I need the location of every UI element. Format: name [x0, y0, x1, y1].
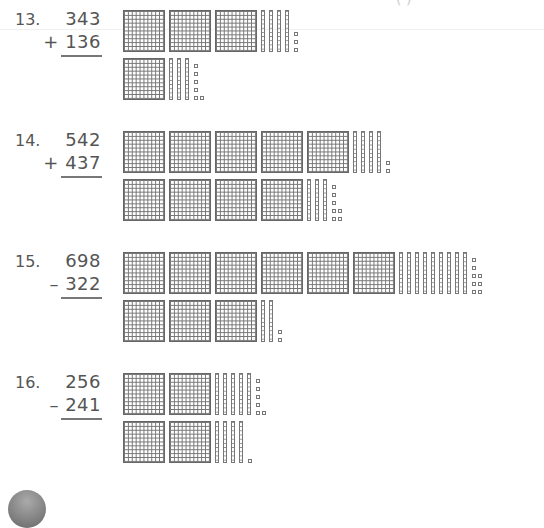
ones-column	[256, 373, 260, 415]
problem-16: 16. 256 – 241	[0, 373, 544, 488]
hundreds-block	[169, 373, 211, 415]
hundreds-block	[123, 179, 165, 221]
tens-rod	[439, 252, 443, 294]
top-addend: 343	[31, 8, 101, 29]
tens-rod	[285, 10, 289, 52]
hundreds-block	[169, 179, 211, 221]
tens-rod	[447, 252, 451, 294]
hundreds-block	[261, 131, 303, 173]
ones-cube	[194, 96, 198, 100]
tens-rod	[415, 252, 419, 294]
hundreds-block	[123, 252, 165, 294]
tens-rod	[177, 58, 181, 100]
tens-rod	[247, 373, 251, 415]
ones-cube	[332, 217, 336, 221]
answer-line	[61, 297, 102, 299]
ones-group	[194, 58, 206, 100]
ones-cube	[194, 88, 198, 92]
hundreds-block	[123, 373, 165, 415]
hundreds-block	[353, 252, 395, 294]
ones-cube	[472, 258, 476, 262]
hundreds-block	[123, 131, 165, 173]
ones-column	[278, 300, 282, 342]
hundreds-block	[169, 421, 211, 463]
header-fragment: ( )	[396, 0, 411, 7]
ones-cube	[472, 274, 476, 278]
base-ten-model-bottom	[123, 179, 344, 221]
ones-cube	[294, 32, 298, 36]
ones-cube	[248, 459, 252, 463]
ones-group	[386, 131, 392, 173]
tens-rod	[223, 421, 227, 463]
ones-cube	[194, 80, 198, 84]
tens-rod	[215, 421, 219, 463]
ones-column	[478, 252, 482, 294]
ones-cube	[332, 185, 336, 189]
tens-rod	[261, 10, 265, 52]
ones-cube	[472, 290, 476, 294]
ones-cube	[256, 379, 260, 383]
problem-13: 13. 343 + 136	[0, 10, 544, 125]
top-addend: 542	[31, 129, 101, 150]
ones-cube	[478, 290, 482, 294]
minuend: 698	[31, 250, 101, 271]
hundreds-block	[169, 300, 211, 342]
tens-rod	[269, 300, 273, 342]
tens-rod	[239, 421, 243, 463]
hundreds-block	[123, 300, 165, 342]
tens-rod	[399, 252, 403, 294]
ones-column	[332, 179, 336, 221]
ones-cube	[332, 193, 336, 197]
tens-rod	[377, 131, 381, 173]
tens-rod	[361, 131, 365, 173]
hundreds-block	[169, 10, 211, 52]
tens-rod	[353, 131, 357, 173]
hundreds-block	[215, 10, 257, 52]
ones-cube	[256, 403, 260, 407]
base-ten-model-top	[123, 10, 300, 52]
bottom-addend: + 136	[31, 31, 101, 52]
base-ten-model-bottom	[123, 300, 284, 342]
ones-cube	[194, 72, 198, 76]
ones-cube	[332, 209, 336, 213]
tens-rod	[463, 252, 467, 294]
ones-column	[262, 373, 266, 415]
ones-cube	[278, 330, 282, 334]
tens-rod	[269, 10, 273, 52]
answer-line	[61, 176, 102, 178]
ones-column	[472, 252, 476, 294]
hundreds-block	[261, 252, 303, 294]
ones-cube	[386, 169, 390, 173]
hundreds-block	[123, 10, 165, 52]
hundreds-block	[215, 252, 257, 294]
hundreds-block	[215, 300, 257, 342]
ones-column	[338, 179, 342, 221]
ones-cube	[386, 161, 390, 165]
hundreds-block	[169, 131, 211, 173]
hundreds-block	[261, 179, 303, 221]
ones-group	[294, 10, 300, 52]
tens-rod	[315, 179, 319, 221]
hundreds-block	[123, 421, 165, 463]
ones-group	[248, 421, 254, 463]
bottom-addend: + 437	[31, 152, 101, 173]
problem-15: 15. 698 – 322	[0, 252, 544, 367]
tens-rod	[223, 373, 227, 415]
ones-cube	[256, 387, 260, 391]
base-ten-model-bottom	[123, 58, 206, 100]
tens-rod	[455, 252, 459, 294]
ones-column	[194, 58, 198, 100]
base-ten-model-top	[123, 252, 484, 294]
ones-cube	[478, 274, 482, 278]
ones-column	[386, 131, 390, 173]
tens-rod	[231, 373, 235, 415]
hundreds-block	[215, 131, 257, 173]
ones-cube	[194, 64, 198, 68]
ones-cube	[294, 48, 298, 52]
tens-rod	[185, 58, 189, 100]
tens-rod	[231, 421, 235, 463]
tens-rod	[431, 252, 435, 294]
ones-group	[256, 373, 268, 415]
subtrahend: – 322	[31, 273, 101, 294]
tens-rod	[407, 252, 411, 294]
